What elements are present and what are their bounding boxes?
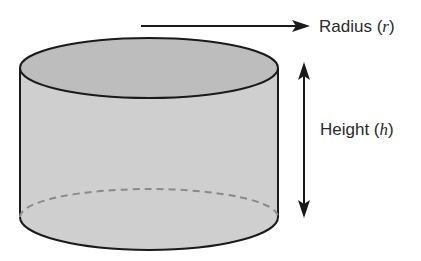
radius-label-word: Radius bbox=[319, 17, 372, 36]
height-variable: h bbox=[380, 120, 389, 139]
cylinder-top-face bbox=[20, 38, 278, 98]
height-label-open: ( bbox=[369, 120, 380, 139]
height-label-word: Height bbox=[320, 120, 369, 139]
cylinder-diagram: Radius (r) Height (h) bbox=[0, 0, 421, 261]
radius-label-open: ( bbox=[372, 17, 383, 36]
radius-label: Radius (r) bbox=[319, 17, 395, 36]
height-label-close: ) bbox=[388, 120, 394, 139]
radius-label-close: ) bbox=[389, 17, 395, 36]
height-label: Height (h) bbox=[320, 120, 394, 139]
